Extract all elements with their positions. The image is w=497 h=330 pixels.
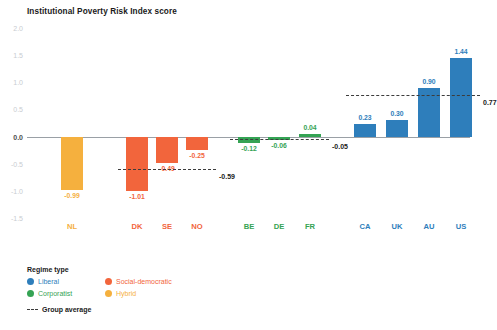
group-average-line	[346, 95, 480, 96]
legend-group-average-label: Group average	[42, 306, 91, 313]
group-average-label: -0.59	[219, 172, 235, 179]
bar-value-label: 0.04	[303, 124, 316, 131]
group-average-line	[230, 139, 329, 140]
x-axis-tick-ca: CA	[360, 222, 371, 231]
y-axis-tick: 0.5	[13, 106, 23, 113]
chart-title: Institutional Poverty Risk Index score	[27, 7, 177, 16]
legend-item-label: Liberal	[38, 278, 59, 285]
bar-nl[interactable]	[61, 137, 83, 191]
legend-swatch-icon	[27, 290, 34, 297]
bar-dk[interactable]	[126, 137, 148, 192]
legend-item-label: Hybrid	[116, 290, 136, 297]
legend-swatch-icon	[105, 290, 112, 297]
bar-uk[interactable]	[386, 120, 408, 136]
bar-no[interactable]	[186, 137, 208, 151]
y-axis-tick: -1.5	[11, 215, 23, 222]
x-axis-tick-fr: FR	[305, 222, 315, 231]
y-axis-tick: -0.5	[11, 160, 23, 167]
bar-value-label: -0.25	[189, 152, 205, 159]
x-axis-tick-de: DE	[274, 222, 285, 231]
y-axis-tick: -1.0	[11, 187, 23, 194]
legend-group-average: Group average	[27, 306, 267, 313]
bar-value-label: -0.06	[271, 142, 287, 149]
x-axis-tick-no: NO	[191, 222, 202, 231]
plot-area: 2.01.51.00.50.0-0.5-1.0-1.5-0.99-1.01-0.…	[27, 28, 470, 218]
legend-swatch-icon	[27, 278, 34, 285]
bar-ca[interactable]	[354, 124, 376, 136]
y-axis-tick: 2.0	[13, 25, 23, 32]
x-axis-tick-nl: NL	[67, 222, 77, 231]
bar-value-label: -0.12	[241, 145, 257, 152]
y-axis-tick: 1.5	[13, 52, 23, 59]
legend-item-label: Corporatist	[38, 290, 72, 297]
y-axis-tick: 1.0	[13, 79, 23, 86]
x-axis-tick-uk: UK	[392, 222, 403, 231]
bar-fr[interactable]	[299, 134, 321, 136]
group-average-label: -0.05	[332, 143, 348, 150]
bar-value-label: 0.90	[422, 78, 435, 85]
legend-item-hybrid[interactable]: Hybrid	[105, 290, 267, 297]
legend-title: Regime type	[27, 266, 267, 273]
legend-swatch-icon	[105, 278, 112, 285]
bar-us[interactable]	[450, 58, 472, 136]
x-axis-tick-se: SE	[162, 222, 172, 231]
bar-se[interactable]	[156, 137, 178, 164]
x-axis-tick-us: US	[456, 222, 467, 231]
dashed-line-icon	[27, 309, 38, 310]
legend-item-social-democratic[interactable]: Social-democratic	[105, 278, 267, 285]
bar-value-label: 0.30	[390, 110, 403, 117]
x-axis-tick-dk: DK	[132, 222, 143, 231]
bar-value-label: 0.23	[358, 114, 371, 121]
x-axis: NLDKSENOBEDEFRCAUKAUUS	[27, 222, 470, 238]
legend: Regime type LiberalSocial-democraticCorp…	[27, 266, 267, 313]
legend-items: LiberalSocial-democraticCorporatistHybri…	[27, 278, 267, 297]
legend-item-label: Social-democratic	[116, 278, 172, 285]
legend-item-liberal[interactable]: Liberal	[27, 278, 105, 285]
x-axis-tick-au: AU	[424, 222, 435, 231]
x-axis-tick-be: BE	[244, 222, 255, 231]
group-average-label: 0.77	[483, 98, 497, 105]
group-average-line	[118, 169, 216, 170]
bar-value-label: 1.44	[454, 48, 467, 55]
y-axis-tick: 0.0	[13, 133, 23, 140]
legend-item-corporatist[interactable]: Corporatist	[27, 290, 105, 297]
bar-value-label: -0.99	[64, 192, 80, 199]
bar-value-label: -1.01	[129, 193, 145, 200]
